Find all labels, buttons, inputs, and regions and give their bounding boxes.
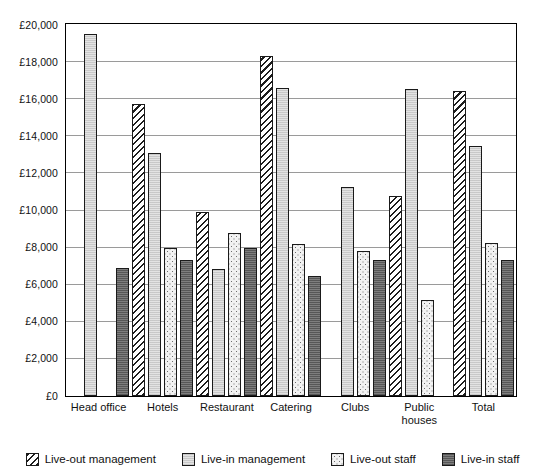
bar xyxy=(341,187,354,396)
bar xyxy=(501,260,514,395)
bar-group xyxy=(131,25,195,396)
bar xyxy=(453,91,466,395)
legend-label: Live-out staff xyxy=(350,453,416,465)
bar xyxy=(180,260,193,395)
legend-item[interactable]: Live-out staff xyxy=(331,453,416,466)
legend-item[interactable]: Live-out management xyxy=(26,453,156,466)
bar xyxy=(212,269,225,395)
bar-chart: £20,000£18,000£16,000£14,000£12,000£10,0… xyxy=(0,0,545,472)
legend-label: Live-in staff xyxy=(461,453,520,465)
bar xyxy=(389,196,402,395)
bar xyxy=(373,260,386,395)
bar-group xyxy=(387,25,451,396)
y-axis-tick-label: £14,000 xyxy=(19,131,58,141)
y-axis-labels: £20,000£18,000£16,000£14,000£12,000£10,0… xyxy=(0,23,62,397)
y-axis-tick-label: £0 xyxy=(46,391,58,401)
legend-item[interactable]: Live-in staff xyxy=(442,453,520,466)
x-axis-category-label: Total xyxy=(451,401,515,426)
bar-group xyxy=(259,25,323,396)
y-axis-tick-label: £16,000 xyxy=(19,94,58,104)
legend-swatch-icon xyxy=(182,453,195,466)
y-axis-tick-label: £20,000 xyxy=(19,20,58,30)
x-axis-category-label: Hotels xyxy=(131,401,195,426)
bar xyxy=(116,268,129,396)
bar xyxy=(164,248,177,395)
y-axis-tick-label: £8,000 xyxy=(25,242,58,252)
bar-group xyxy=(451,25,515,396)
x-axis-labels: Head officeHotelsRestaurantCateringClubs… xyxy=(67,401,516,426)
bar xyxy=(421,300,434,396)
legend-item[interactable]: Live-in management xyxy=(182,453,305,466)
bar xyxy=(132,104,145,395)
y-axis-tick-label: £12,000 xyxy=(19,168,58,178)
bar xyxy=(244,248,257,395)
bar xyxy=(357,251,370,396)
x-axis-category-label: Clubs xyxy=(323,401,387,426)
bar-group xyxy=(323,25,387,396)
bar xyxy=(485,243,498,395)
y-axis-tick-label: £2,000 xyxy=(25,353,58,363)
legend-swatch-icon xyxy=(331,453,344,466)
bar xyxy=(148,153,161,396)
bar xyxy=(308,276,321,396)
x-axis-category-label: Public houses xyxy=(387,401,451,426)
legend-label: Live-out management xyxy=(45,453,156,465)
legend-swatch-icon xyxy=(442,453,455,466)
legend-swatch-icon xyxy=(26,453,39,466)
y-axis-tick-label: £6,000 xyxy=(25,279,58,289)
plot-area-wrapper: £20,000£18,000£16,000£14,000£12,000£10,0… xyxy=(0,0,545,420)
bar xyxy=(405,89,418,396)
y-axis-tick-label: £10,000 xyxy=(19,205,58,215)
y-axis-tick-label: £18,000 xyxy=(19,57,58,67)
bar xyxy=(469,146,482,395)
bar xyxy=(228,233,241,395)
y-axis-tick-label: £4,000 xyxy=(25,316,58,326)
bar xyxy=(292,244,305,395)
bar xyxy=(276,88,289,396)
legend-label: Live-in management xyxy=(201,453,305,465)
x-axis-category-label: Restaurant xyxy=(195,401,259,426)
bar xyxy=(260,56,273,395)
x-axis-category-label: Head office xyxy=(67,401,131,426)
x-axis-category-label: Catering xyxy=(259,401,323,426)
bar-group xyxy=(195,25,259,396)
bar xyxy=(84,34,97,396)
bar-groups xyxy=(67,25,516,396)
chart-legend: Live-out managementLive-in managementLiv… xyxy=(0,446,545,472)
bar xyxy=(196,212,209,396)
bar-group xyxy=(67,25,131,396)
